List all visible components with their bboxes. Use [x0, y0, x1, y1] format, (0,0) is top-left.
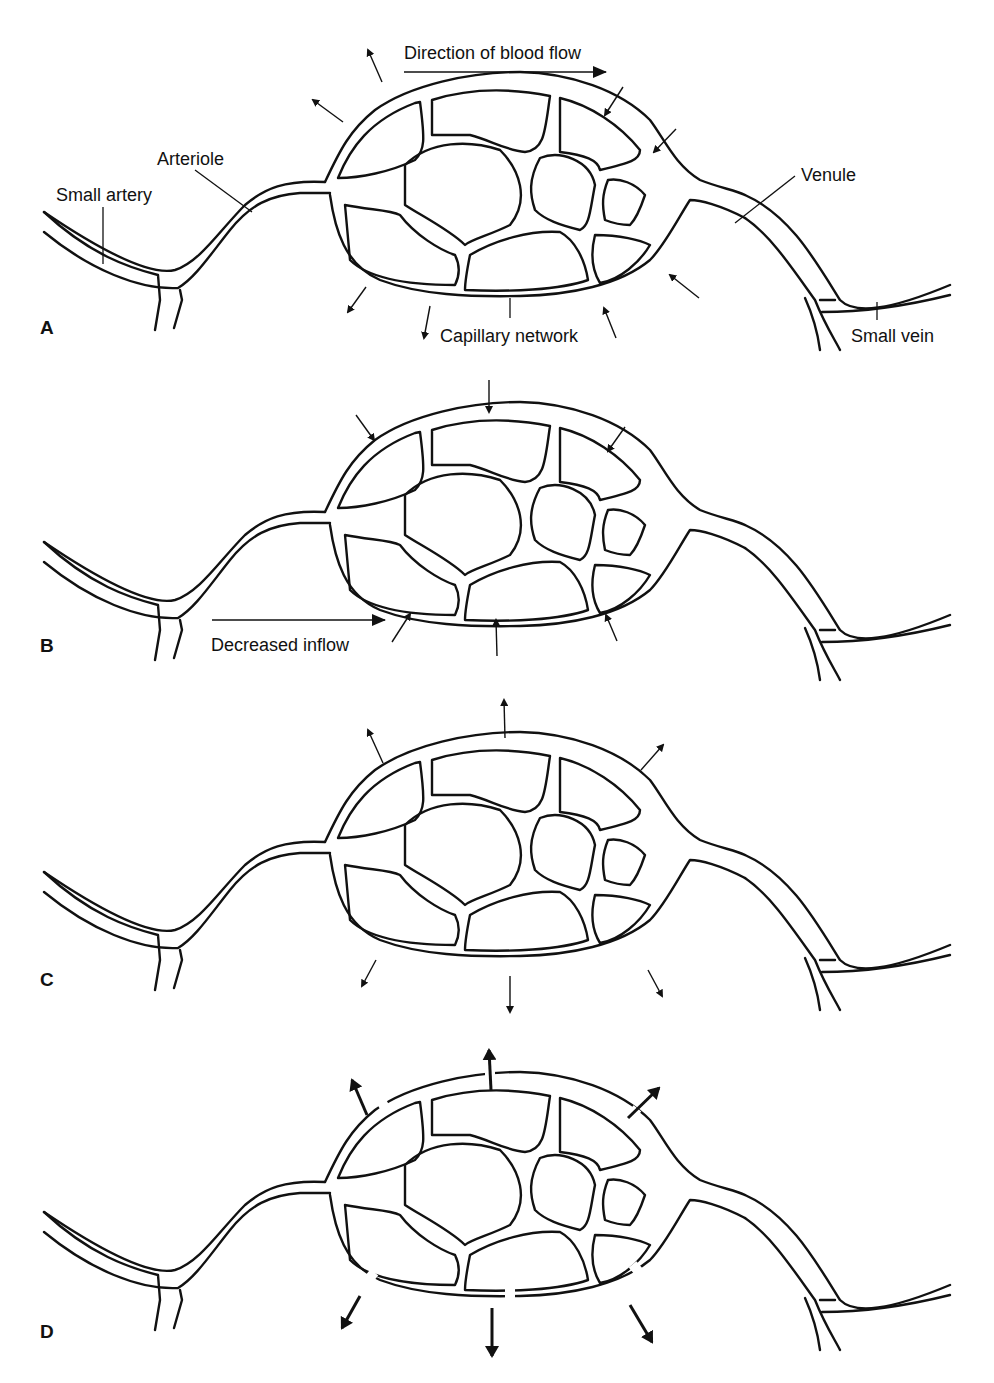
panel-letter-d: D	[40, 1322, 54, 1341]
panel-letter-c: C	[40, 970, 54, 989]
label-venule: Venule	[801, 166, 856, 184]
panel-c-diagram	[44, 700, 950, 1012]
panel-letter-b: B	[40, 636, 54, 655]
label-capillary-network: Capillary network	[440, 327, 578, 345]
panel-b-diagram	[44, 380, 950, 680]
panel-letter-a: A	[40, 318, 54, 337]
label-small-artery: Small artery	[56, 186, 152, 204]
label-direction-of-blood-flow: Direction of blood flow	[404, 44, 581, 62]
label-small-vein: Small vein	[851, 327, 934, 345]
panel-d-diagram	[44, 1050, 950, 1356]
panel-a-diagram	[44, 50, 950, 350]
capillary-diagram	[0, 0, 994, 1383]
label-decreased-inflow: Decreased inflow	[211, 636, 349, 654]
label-arteriole: Arteriole	[157, 150, 224, 168]
